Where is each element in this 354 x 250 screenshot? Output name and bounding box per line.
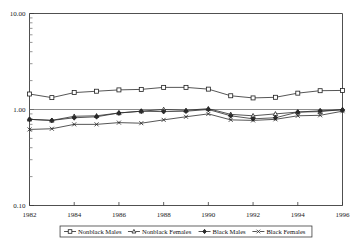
marker-square (95, 89, 99, 93)
y-axis-tick-label: 1.00 (13, 106, 26, 114)
x-axis-tick-label: 1994 (291, 211, 306, 219)
legend-entry-label: Black Males (213, 228, 247, 235)
marker-square (68, 230, 72, 234)
legend-entry-label: Nonblack Males (78, 228, 122, 235)
x-axis-tick-label: 1992 (246, 211, 261, 219)
marker-square (229, 94, 233, 98)
legend-entry-label: Nonblack Females (142, 228, 192, 235)
series-1 (28, 85, 345, 100)
chart-legend: Nonblack MalesNonblack FemalesBlack Male… (60, 226, 312, 237)
marker-diamond (206, 107, 210, 112)
marker-square (72, 91, 76, 95)
marker-square (162, 85, 166, 89)
marker-square (117, 88, 121, 92)
legend-entry-label: Black Females (266, 228, 305, 235)
line-chart: 10.001.000.10198219841986198819901992199… (0, 0, 354, 250)
x-axis-tick-label: 1982 (23, 211, 38, 219)
marker-square (318, 89, 322, 93)
y-axis-tick-label: 0.10 (13, 202, 26, 210)
figure-container: 10.001.000.10198219841986198819901992199… (0, 0, 354, 250)
marker-square (28, 92, 32, 96)
marker-square (273, 95, 277, 99)
marker-diamond (95, 114, 99, 119)
marker-square (139, 87, 143, 91)
marker-square (341, 88, 345, 92)
marker-square (184, 85, 188, 89)
x-axis-tick-label: 1988 (157, 211, 172, 219)
marker-square (251, 96, 255, 100)
x-axis-tick-label: 1986 (112, 211, 127, 219)
x-axis-tick-label: 1984 (67, 211, 82, 219)
marker-square (50, 96, 54, 100)
y-axis-tick-label: 10.00 (10, 10, 26, 18)
marker-square (296, 91, 300, 95)
x-axis-tick-label: 1990 (201, 211, 216, 219)
marker-square (206, 87, 210, 91)
x-axis-tick-label: 1996 (336, 211, 351, 219)
